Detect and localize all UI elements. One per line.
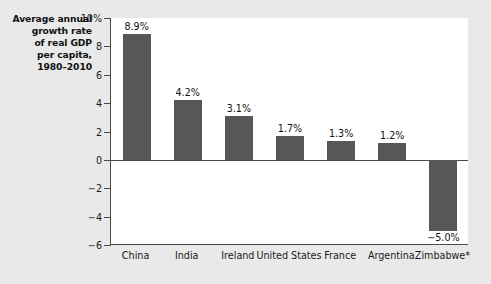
y-axis-tick xyxy=(104,245,111,246)
bar-value-label: 4.2% xyxy=(158,87,218,98)
y-axis-tick-label: 10% xyxy=(42,13,102,24)
bar xyxy=(327,141,355,159)
y-axis-tick xyxy=(104,46,111,47)
y-axis-tick-label: 8 xyxy=(42,41,102,52)
bar xyxy=(123,34,151,160)
y-axis-tick xyxy=(104,18,111,19)
y-axis-tick xyxy=(104,160,111,161)
y-axis-tick xyxy=(104,188,111,189)
bar xyxy=(276,136,304,160)
bar-value-label: 3.1% xyxy=(209,103,269,114)
chart-figure: Average annual growth rate of real GDP p… xyxy=(0,0,491,284)
y-axis-tick xyxy=(104,75,111,76)
y-axis-title-line-2: growth rate xyxy=(0,25,92,37)
plot-inner: 10%86420−2−4−68.9%4.2%3.1%1.7%1.3%1.2%−5… xyxy=(111,18,468,244)
bar xyxy=(378,143,406,160)
y-axis-tick-label: 4 xyxy=(42,98,102,109)
y-axis-tick-label: 0 xyxy=(42,154,102,165)
zero-baseline xyxy=(111,160,468,161)
bar-value-label: −5.0% xyxy=(413,232,473,243)
bar xyxy=(429,160,457,231)
bar xyxy=(174,100,202,160)
bar-value-label: 8.9% xyxy=(107,21,167,32)
y-axis-tick-label: 2 xyxy=(42,126,102,137)
y-axis-tick-label: −2 xyxy=(42,183,102,194)
bar xyxy=(225,116,253,160)
y-axis-tick xyxy=(104,132,111,133)
x-axis-tick-label: Zimbabwe* xyxy=(404,250,480,262)
y-axis-tick-label: −4 xyxy=(42,211,102,222)
y-axis-tick-label: 6 xyxy=(42,69,102,80)
y-axis-tick-label: −6 xyxy=(42,240,102,251)
y-axis-tick xyxy=(104,217,111,218)
y-axis-tick xyxy=(104,103,111,104)
plot-area: 10%86420−2−4−68.9%4.2%3.1%1.7%1.3%1.2%−5… xyxy=(110,18,468,245)
bar-value-label: 1.2% xyxy=(362,130,422,141)
